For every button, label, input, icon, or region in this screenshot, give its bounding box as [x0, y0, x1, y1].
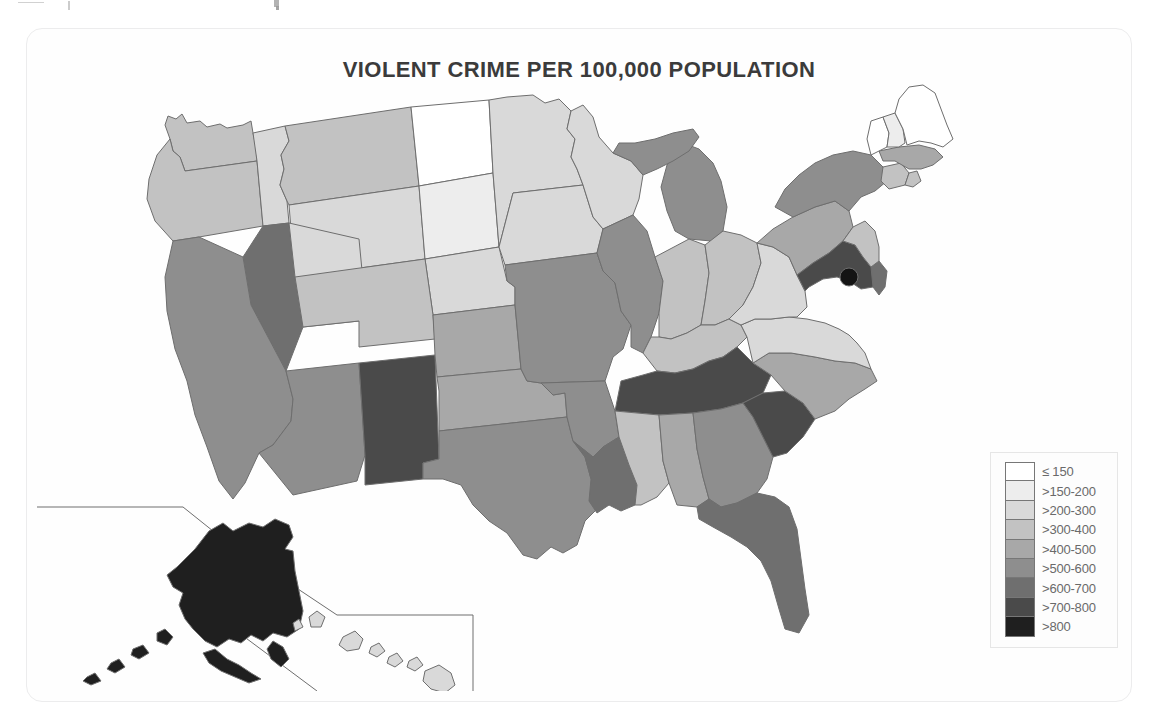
state-south-dakota — [419, 173, 499, 259]
alaska-hawaii-inset — [37, 507, 473, 691]
legend-swatch — [1005, 520, 1035, 539]
scan-artifact-speck — [68, 1, 70, 10]
district-of-columbia-marker — [840, 268, 858, 286]
legend-item: >500-600 — [1005, 559, 1096, 578]
legend-rows: ≤ 150>150-200>200-300>300-400>400-500>50… — [1005, 462, 1096, 637]
legend-item: >150-200 — [1005, 481, 1096, 500]
us-choropleth-map — [37, 81, 997, 691]
state-florida — [697, 493, 809, 633]
legend-item: >300-400 — [1005, 520, 1096, 539]
legend-swatch — [1005, 501, 1035, 520]
state-hawaii — [293, 611, 455, 691]
state-north-dakota — [411, 100, 493, 186]
legend-label: >800 — [1042, 619, 1070, 634]
legend-label: >700-800 — [1042, 600, 1096, 615]
legend-label: >600-700 — [1042, 581, 1096, 596]
state-nebraska — [425, 247, 515, 315]
legend-item: >600-700 — [1005, 578, 1096, 597]
state-alaska — [83, 519, 303, 685]
scan-artifact-speck — [276, 6, 279, 10]
legend-item: >400-500 — [1005, 540, 1096, 559]
legend-swatch — [1005, 617, 1035, 636]
legend: ≤ 150>150-200>200-300>300-400>400-500>50… — [990, 452, 1118, 648]
legend-item: >700-800 — [1005, 598, 1096, 617]
legend-label: >200-300 — [1042, 503, 1096, 518]
state-delaware — [871, 261, 887, 295]
state-kansas — [433, 305, 521, 377]
legend-swatch — [1005, 578, 1035, 597]
figure-card: VIOLENT CRIME PER 100,000 POPULATION — [26, 28, 1132, 702]
map-title: VIOLENT CRIME PER 100,000 POPULATION — [27, 57, 1131, 83]
legend-item: >200-300 — [1005, 501, 1096, 520]
legend-swatch — [1005, 462, 1035, 481]
legend-swatch — [1005, 540, 1035, 559]
legend-swatch — [1005, 598, 1035, 617]
legend-label: >400-500 — [1042, 542, 1096, 557]
scan-artifacts — [0, 0, 1160, 24]
legend-swatch — [1005, 481, 1035, 500]
legend-item: ≤ 150 — [1005, 462, 1096, 481]
legend-label: >500-600 — [1042, 561, 1096, 576]
legend-item: >800 — [1005, 617, 1096, 636]
legend-label: >150-200 — [1042, 484, 1096, 499]
legend-label: ≤ 150 — [1042, 464, 1073, 479]
legend-swatch — [1005, 559, 1035, 578]
legend-label: >300-400 — [1042, 522, 1096, 537]
scan-artifact-streak — [18, 2, 44, 3]
